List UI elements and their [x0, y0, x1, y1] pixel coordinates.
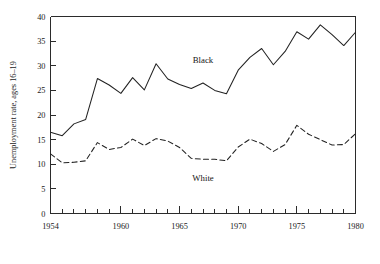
y-axis-title: Unemployment rate, ages 16–19: [9, 61, 18, 169]
x-tick-label: 1965: [171, 222, 188, 231]
x-tick-label: 1960: [113, 222, 130, 231]
unemployment-line-chart: Unemployment rate, ages 16–19 0510152025…: [0, 0, 380, 264]
series-line-black: [51, 25, 356, 136]
y-tick-label: 20: [37, 111, 45, 120]
x-tick-marks: [51, 206, 356, 214]
x-tick-labels: 195419601965197019751980: [42, 222, 364, 231]
y-tick-label: 10: [37, 160, 45, 169]
y-tick-label: 30: [37, 62, 45, 71]
series-label-white: White: [192, 173, 214, 183]
y-tick-label: 5: [41, 185, 45, 194]
y-tick-label: 40: [37, 13, 45, 22]
series-line-white: [51, 125, 356, 162]
y-tick-label: 25: [37, 86, 45, 95]
y-tick-labels: 0510152025303540: [37, 13, 45, 219]
x-tick-label: 1970: [230, 222, 247, 231]
x-tick-label: 1980: [347, 222, 364, 231]
series-label-black: Black: [193, 55, 214, 65]
y-tick-label: 15: [37, 136, 45, 145]
chart-figure: Unemployment rate, ages 16–19 0510152025…: [0, 0, 380, 264]
x-tick-label: 1975: [289, 222, 306, 231]
y-tick-label: 0: [41, 210, 45, 219]
x-tick-label: 1954: [42, 222, 59, 231]
y-tick-marks: [51, 17, 56, 214]
series-lines: [51, 25, 356, 163]
y-tick-label: 35: [37, 37, 45, 46]
